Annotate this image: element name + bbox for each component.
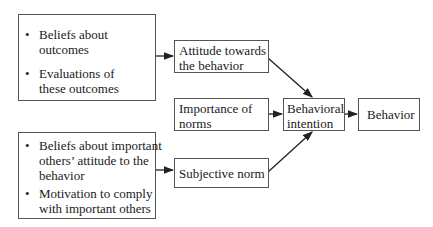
theory-of-reasoned-action-diagram: • Beliefs about outcomes • Evaluations o…: [0, 0, 433, 227]
subjective-norm-box: Subjective norm: [174, 158, 269, 188]
attitude-box: Attitude towards the behavior: [174, 40, 269, 73]
importance-of-norms-box: Importance of norms: [174, 98, 269, 131]
behavioral-intention-box: Behavioral intention: [283, 98, 345, 131]
normative-beliefs-box: • Beliefs about important others’ attitu…: [18, 132, 156, 219]
behavior-box: Behavior: [358, 98, 420, 131]
arrow-subjective-to-intention: [268, 132, 312, 172]
outcomes-beliefs-box: • Beliefs about outcomes • Evaluations o…: [18, 14, 156, 101]
arrow-attitude-to-intention: [268, 58, 312, 97]
